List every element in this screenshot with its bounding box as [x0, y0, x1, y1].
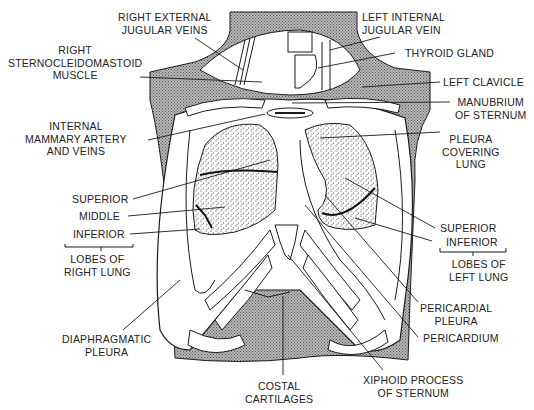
- label-lobes-of-left-lung: LOBES OF LEFT LUNG: [449, 258, 508, 283]
- label-thyroid-gland: THYROID GLAND: [405, 47, 494, 60]
- label-lobes-of-right-lung: LOBES OF RIGHT LUNG: [64, 253, 131, 278]
- label-inferior-right: INFERIOR: [73, 228, 125, 241]
- label-diaphragmatic-pleura: DIAPHRAGMATIC PLEURA: [62, 333, 151, 358]
- label-left-clavicle: LEFT CLAVICLE: [443, 76, 524, 89]
- label-right-sternocleidomastoid-muscle: RIGHT STERNOCLEIDOMASTOID MUSCLE: [8, 44, 142, 82]
- label-internal-mammary-artery-and-veins: INTERNAL MAMMARY ARTERY AND VEINS: [25, 120, 127, 158]
- label-middle-right: MIDDLE: [79, 210, 120, 223]
- label-pleura-covering-lung: PLEURA COVERING LUNG: [442, 133, 500, 171]
- label-costal-cartilages: COSTAL CARTILAGES: [245, 380, 313, 405]
- label-pericardial-pleura: PERICARDIAL PLEURA: [420, 302, 492, 327]
- label-inferior-left: INFERIOR: [446, 236, 498, 249]
- label-superior-right: SUPERIOR: [72, 193, 128, 206]
- label-manubrium-of-sternum: MANUBRIUM OF STERNUM: [455, 96, 526, 121]
- label-xiphoid-process-of-sternum: XIPHOID PROCESS OF STERNUM: [363, 374, 463, 399]
- label-right-external-jugular-veins: RIGHT EXTERNAL JUGULAR VEINS: [118, 11, 212, 36]
- label-left-internal-jugular-vein: LEFT INTERNAL JUGULAR VEIN: [362, 11, 445, 36]
- label-superior-left: SUPERIOR: [440, 222, 496, 235]
- label-pericardium: PERICARDIUM: [423, 332, 499, 345]
